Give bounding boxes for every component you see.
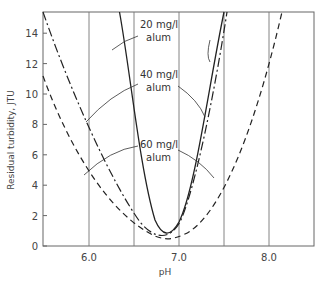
y-ticks	[43, 33, 47, 246]
series-40mg-dashdot	[43, 12, 227, 236]
arrow-icon	[86, 84, 138, 122]
series-60mg-dashed	[43, 12, 282, 239]
annotation-20mg-text: 20 mg/l	[140, 19, 178, 30]
y-tick-2: 2	[32, 211, 38, 222]
annotation-60mg-text: 60 mg/l	[140, 139, 178, 150]
y-axis-label: Residual turbidity, JTU	[6, 90, 16, 190]
x-tick-6: 6.0	[81, 252, 97, 263]
x-tick-labels: 6.0 7.0 8.0	[81, 252, 277, 263]
y-tick-0: 0	[32, 241, 38, 252]
y-tick-6: 6	[32, 150, 38, 161]
annotation-20mg-alum: alum	[146, 32, 171, 43]
arrow-icon	[84, 146, 138, 175]
annotation-40mg-alum: alum	[146, 82, 171, 93]
x-tick-7: 7.0	[171, 252, 187, 263]
series-20mg-solid	[120, 12, 225, 233]
x-axis-label: pH	[159, 267, 171, 277]
x-tick-8: 8.0	[261, 252, 277, 263]
y-tick-14: 14	[25, 28, 38, 39]
arrow-icon	[208, 40, 210, 62]
arrow-icon	[178, 86, 205, 117]
annotation-60mg-alum: alum	[146, 152, 171, 163]
y-tick-8: 8	[32, 119, 38, 130]
y-tick-4: 4	[32, 180, 38, 191]
y-tick-12: 12	[25, 59, 38, 70]
annotation-40mg-text: 40 mg/l	[140, 69, 178, 80]
annotation-40mg: 40 mg/l alum	[86, 69, 205, 122]
turbidity-chart: 0 2 4 6 8 10 12 14 6.0 7.0 8.0 pH Residu…	[0, 0, 321, 282]
y-tick-labels: 0 2 4 6 8 10 12 14	[25, 28, 38, 252]
y-tick-10: 10	[25, 89, 38, 100]
